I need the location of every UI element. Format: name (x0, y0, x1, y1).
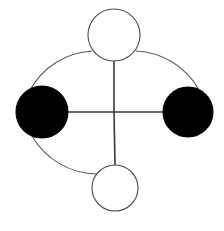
ring-diagram (0, 0, 224, 231)
edge-vertical-bottom (114, 112, 115, 165)
node-right (163, 87, 213, 137)
diagram-canvas (0, 0, 224, 231)
arc-left-bottom (32, 136, 97, 174)
node-left (16, 86, 68, 138)
arc-top-left (30, 51, 92, 90)
connector-group (66, 61, 165, 165)
node-bottom (92, 165, 138, 211)
node-top (88, 9, 140, 61)
arc-top-right (136, 51, 199, 90)
